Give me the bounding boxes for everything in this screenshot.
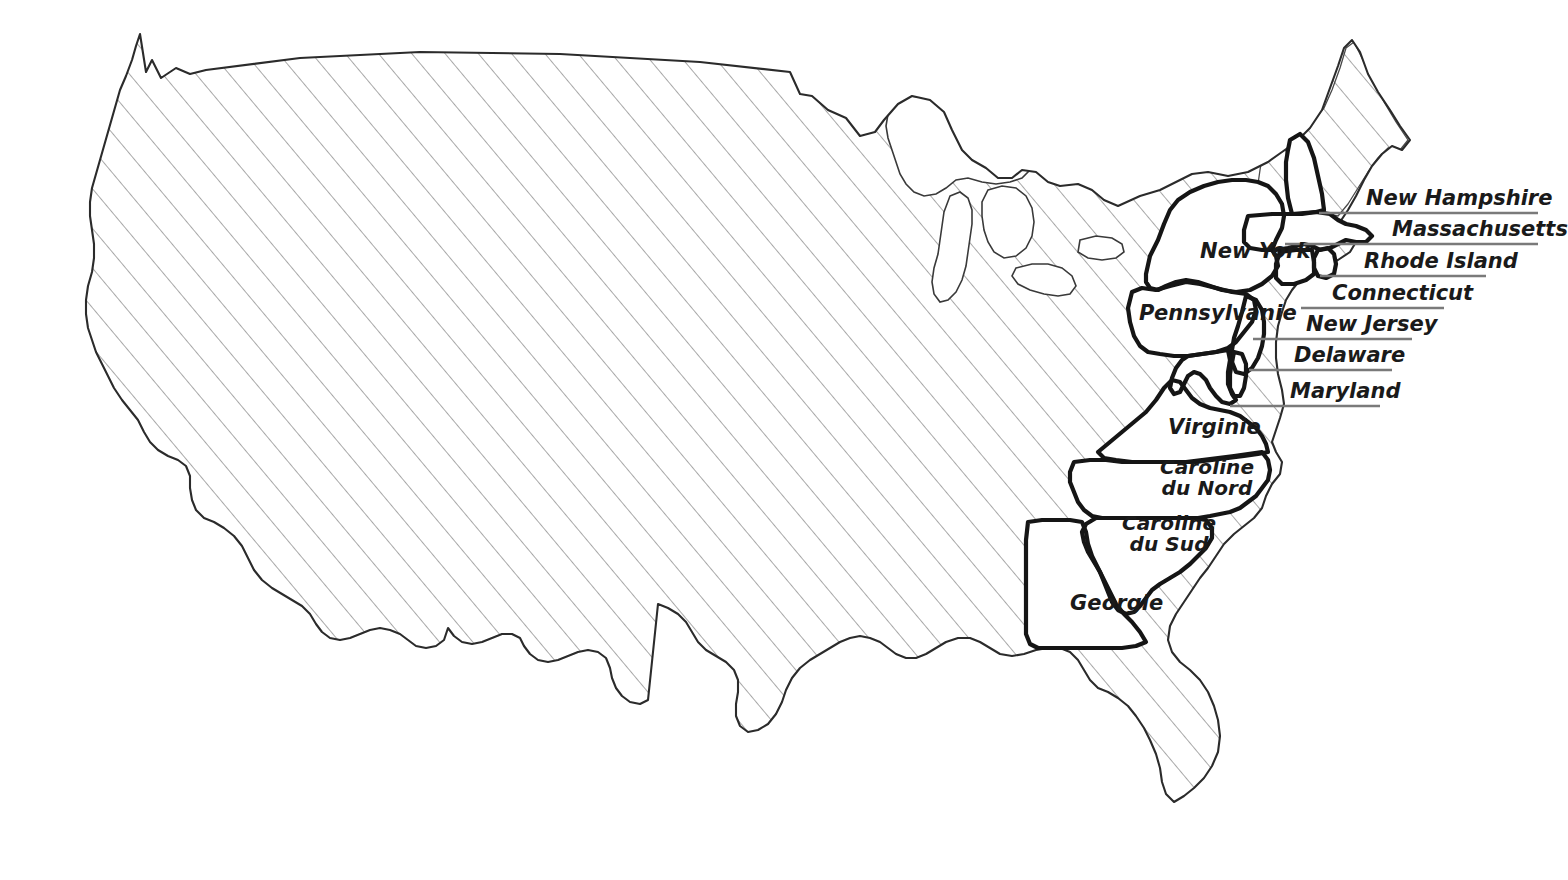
usa-thirteen-colonies-map xyxy=(0,0,1565,880)
map-root: New YorkPennsylvanieVirginieCarolinedu N… xyxy=(0,0,1565,880)
